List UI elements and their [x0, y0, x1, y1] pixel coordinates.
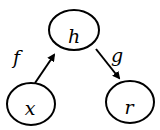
- arrow-f-icon: [35, 55, 54, 83]
- graph-diagram: f g h x r: [0, 0, 160, 130]
- edge-label-f: f: [11, 46, 23, 68]
- edge-g: g: [96, 44, 123, 78]
- node-h-label: h: [68, 25, 80, 47]
- node-x: x: [7, 83, 55, 125]
- edge-label-g: g: [111, 44, 123, 66]
- node-h: h: [49, 10, 99, 50]
- node-r: r: [106, 81, 154, 123]
- node-x-label: x: [25, 97, 36, 119]
- edge-f: f: [11, 46, 54, 83]
